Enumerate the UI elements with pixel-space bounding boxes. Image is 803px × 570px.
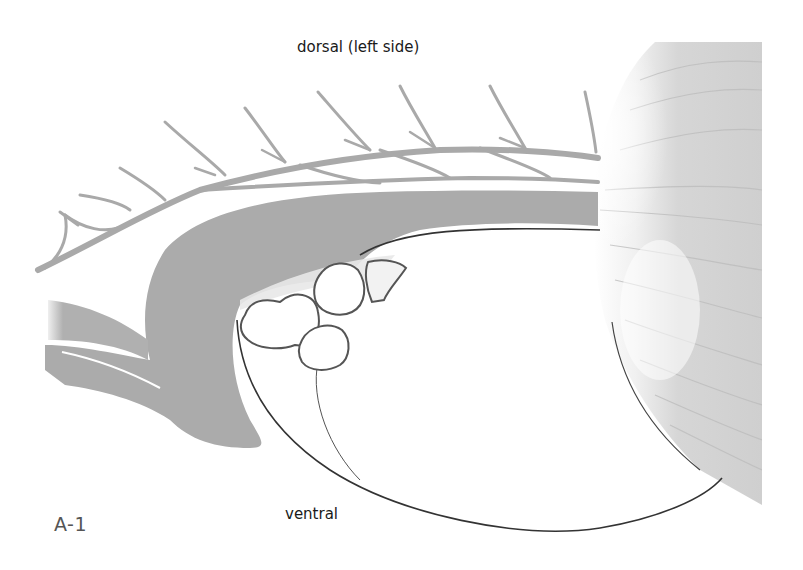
- striated-mass: [570, 42, 762, 505]
- orientation-label-dorsal: dorsal (left side): [297, 38, 419, 56]
- orientation-label-ventral: ventral: [285, 505, 338, 523]
- figure-id-label: A-1: [54, 513, 87, 535]
- illustration-canvas: [0, 0, 803, 570]
- anatomical-figure: dorsal (left side) ventral A-1: [0, 0, 803, 570]
